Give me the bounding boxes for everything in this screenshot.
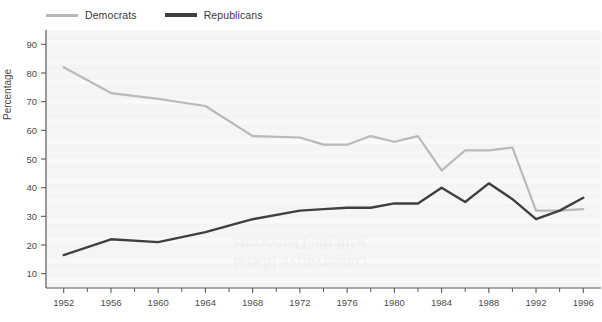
svg-text:40: 40 bbox=[26, 182, 37, 193]
svg-text:1972: 1972 bbox=[289, 297, 310, 308]
svg-text:1968: 1968 bbox=[242, 297, 263, 308]
svg-text:1964: 1964 bbox=[195, 297, 216, 308]
svg-text:80: 80 bbox=[26, 68, 37, 79]
svg-text:20: 20 bbox=[26, 240, 37, 251]
svg-text:1988: 1988 bbox=[478, 297, 499, 308]
svg-text:1956: 1956 bbox=[100, 297, 121, 308]
svg-text:1960: 1960 bbox=[148, 297, 169, 308]
svg-text:90: 90 bbox=[26, 39, 37, 50]
svg-text:1992: 1992 bbox=[525, 297, 546, 308]
svg-text:30: 30 bbox=[26, 211, 37, 222]
svg-text:1976: 1976 bbox=[337, 297, 358, 308]
svg-text:1996: 1996 bbox=[573, 297, 594, 308]
svg-text:60: 60 bbox=[26, 125, 37, 136]
svg-text:1952: 1952 bbox=[53, 297, 74, 308]
svg-text:70: 70 bbox=[26, 96, 37, 107]
svg-text:1984: 1984 bbox=[431, 297, 452, 308]
y-axis-ticks: 102030405060708090 bbox=[26, 39, 46, 279]
svg-text:with the Democrats: with the Democrats bbox=[233, 234, 366, 253]
watermark: with the Democratsconservative liberal bbox=[233, 234, 367, 273]
chart-container: Democrats Republicans Percentage with th… bbox=[0, 0, 602, 322]
x-axis-ticks: 1952195619601964196819721976198019841988… bbox=[53, 288, 594, 308]
svg-text:10: 10 bbox=[26, 268, 37, 279]
svg-text:conservative liberal: conservative liberal bbox=[233, 254, 367, 273]
svg-text:50: 50 bbox=[26, 154, 37, 165]
chart-plot: with the Democratsconservative liberal 1… bbox=[0, 0, 602, 322]
svg-text:1980: 1980 bbox=[384, 297, 405, 308]
